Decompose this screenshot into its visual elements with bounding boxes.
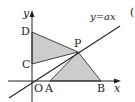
point-label-o: O	[34, 82, 43, 95]
point-label-c: C	[22, 58, 30, 71]
cut-off-mark: (	[130, 6, 134, 19]
y-axis-arrow-icon	[30, 10, 35, 17]
coordinate-diagram: y x y=ax O A B C D P (	[0, 0, 135, 102]
x-axis-label: x	[114, 82, 121, 95]
point-label-d: D	[21, 25, 30, 38]
point-label-p: P	[74, 37, 82, 50]
point-label-b: B	[97, 82, 105, 95]
line-label: y=ax	[89, 11, 116, 22]
y-axis-label: y	[22, 7, 30, 20]
point-label-a: A	[44, 82, 54, 95]
